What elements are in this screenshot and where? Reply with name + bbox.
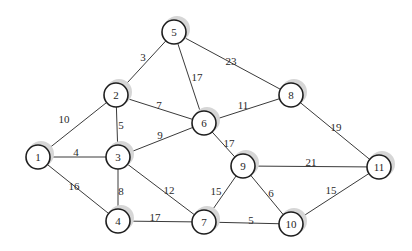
- node-label: 1: [35, 151, 41, 163]
- edge-weight-label: 4: [73, 146, 79, 158]
- edge-weight-label: 17: [192, 71, 204, 83]
- edge-labels-layer: 10416357981217172311171556211915: [59, 51, 343, 226]
- edge-weight-label: 3: [140, 51, 146, 63]
- edge-weight-label: 10: [59, 113, 71, 125]
- edge-weight-label: 15: [326, 184, 338, 196]
- node-10: 10: [279, 208, 307, 236]
- node-9: 9: [231, 150, 259, 178]
- node-5: 5: [162, 16, 190, 44]
- node-6: 6: [192, 107, 220, 135]
- node-label: 2: [113, 89, 119, 101]
- edge-weight-label: 15: [211, 185, 223, 197]
- edge-weight-label: 5: [118, 119, 124, 131]
- edge-weight-label: 21: [306, 156, 317, 168]
- node-8: 8: [279, 79, 307, 107]
- edge-weight-label: 17: [224, 137, 236, 149]
- edge-weight-label: 8: [118, 185, 124, 197]
- node-7: 7: [192, 206, 220, 234]
- edge-weight-label: 6: [268, 187, 274, 199]
- node-label: 4: [115, 215, 121, 227]
- node-label: 8: [288, 89, 294, 101]
- graph-diagram: 10416357981217172311171556211915 1234567…: [0, 0, 412, 251]
- node-label: 10: [286, 218, 298, 230]
- edge-weight-label: 16: [69, 180, 81, 192]
- node-label: 11: [374, 161, 385, 173]
- edge-weight-label: 9: [157, 129, 163, 141]
- node-3: 3: [106, 141, 134, 169]
- edge-weight-label: 17: [150, 211, 162, 223]
- node-4: 4: [106, 205, 134, 233]
- node-label: 6: [201, 117, 207, 129]
- node-2: 2: [104, 79, 132, 107]
- edge-weight-label: 12: [164, 184, 175, 196]
- node-label: 7: [201, 216, 207, 228]
- node-label: 5: [171, 26, 177, 38]
- edge-weight-label: 23: [226, 55, 238, 67]
- node-label: 3: [115, 151, 121, 163]
- edge-weight-label: 11: [238, 99, 249, 111]
- edge-weight-label: 5: [248, 214, 254, 226]
- node-11: 11: [367, 151, 395, 179]
- edge-weight-label: 7: [156, 99, 162, 111]
- edge-weight-label: 19: [331, 121, 343, 133]
- node-label: 9: [240, 160, 246, 172]
- node-1: 1: [26, 141, 54, 169]
